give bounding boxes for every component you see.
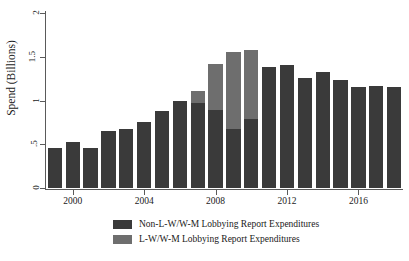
- bar-group[interactable]: [48, 13, 62, 188]
- bar-group[interactable]: [191, 13, 205, 188]
- y-tick-label: 2: [0, 8, 38, 17]
- bar-segment-non-lwwm[interactable]: [48, 148, 62, 188]
- bar-segment-non-lwwm[interactable]: [351, 87, 365, 189]
- bar-segment-non-lwwm[interactable]: [66, 142, 80, 188]
- bar-segment-lwwm[interactable]: [208, 64, 222, 110]
- legend-label-lwwm: L-W/W-M Lobbying Report Expenditures: [139, 233, 300, 246]
- chart-figure: Spend (Billions) 0.511.52 20002004200820…: [0, 0, 409, 261]
- x-tick: [287, 190, 288, 195]
- chart-legend: Non-L-W/W-M Lobbying Report Expenditures…: [113, 218, 319, 248]
- bar-segment-non-lwwm[interactable]: [101, 131, 115, 188]
- bar-group[interactable]: [369, 13, 383, 188]
- bar-segment-non-lwwm[interactable]: [137, 122, 151, 188]
- bar-group[interactable]: [244, 13, 258, 188]
- bar-segment-non-lwwm[interactable]: [369, 86, 383, 188]
- x-tick-label: 2008: [196, 196, 236, 207]
- y-tick-label: 0: [0, 183, 38, 192]
- bar-group[interactable]: [316, 13, 330, 188]
- bar-group[interactable]: [298, 13, 312, 188]
- bar-group[interactable]: [351, 13, 365, 188]
- bar-group[interactable]: [333, 13, 347, 188]
- bar-group[interactable]: [137, 13, 151, 188]
- bar-segment-non-lwwm[interactable]: [155, 111, 169, 188]
- bar-segment-lwwm[interactable]: [191, 91, 205, 103]
- bar-segment-non-lwwm[interactable]: [83, 148, 97, 188]
- bar-segment-non-lwwm[interactable]: [173, 101, 187, 189]
- x-tick-label: 2004: [124, 196, 164, 207]
- bar-segment-non-lwwm[interactable]: [387, 87, 401, 189]
- y-axis-title: Spend (Billions): [5, 13, 17, 143]
- bar-segment-non-lwwm[interactable]: [244, 119, 258, 188]
- bar-group[interactable]: [173, 13, 187, 188]
- legend-swatch-lwwm: [113, 235, 132, 244]
- x-tick-label: 2000: [53, 196, 93, 207]
- y-tick: [40, 144, 45, 145]
- y-tick-label: .5: [0, 139, 38, 148]
- x-tick: [358, 190, 359, 195]
- x-tick: [216, 190, 217, 195]
- bar-group[interactable]: [387, 13, 401, 188]
- bar-segment-lwwm[interactable]: [244, 50, 258, 119]
- bar-group[interactable]: [66, 13, 80, 188]
- bar-segment-non-lwwm[interactable]: [298, 78, 312, 188]
- legend-item-non-lwwm: Non-L-W/W-M Lobbying Report Expenditures: [113, 218, 319, 231]
- legend-swatch-non-lwwm: [113, 220, 132, 229]
- y-tick: [40, 101, 45, 102]
- bar-group[interactable]: [119, 13, 133, 188]
- legend-label-non-lwwm: Non-L-W/W-M Lobbying Report Expenditures: [139, 218, 319, 231]
- x-tick-label: 2012: [267, 196, 307, 207]
- bar-segment-non-lwwm[interactable]: [226, 129, 240, 189]
- y-tick: [40, 13, 45, 14]
- bar-group[interactable]: [83, 13, 97, 188]
- bar-segment-lwwm[interactable]: [226, 52, 240, 128]
- x-tick: [73, 190, 74, 195]
- x-axis-line: [45, 189, 403, 190]
- bar-segment-non-lwwm[interactable]: [316, 72, 330, 188]
- plot-area: [46, 13, 403, 188]
- bar-segment-non-lwwm[interactable]: [333, 80, 347, 188]
- legend-item-lwwm: L-W/W-M Lobbying Report Expenditures: [113, 233, 319, 246]
- y-tick: [40, 188, 45, 189]
- bar-group[interactable]: [208, 13, 222, 188]
- bar-segment-non-lwwm[interactable]: [208, 110, 222, 188]
- bar-group[interactable]: [101, 13, 115, 188]
- y-tick-label: 1: [0, 96, 38, 105]
- bar-group[interactable]: [226, 13, 240, 188]
- bar-group[interactable]: [280, 13, 294, 188]
- x-tick-label: 2016: [338, 196, 378, 207]
- y-tick: [40, 57, 45, 58]
- bar-segment-non-lwwm[interactable]: [262, 67, 276, 188]
- bar-segment-non-lwwm[interactable]: [280, 65, 294, 188]
- x-tick: [144, 190, 145, 195]
- bar-group[interactable]: [262, 13, 276, 188]
- bar-group[interactable]: [155, 13, 169, 188]
- bar-segment-non-lwwm[interactable]: [119, 129, 133, 188]
- bar-segment-non-lwwm[interactable]: [191, 103, 205, 188]
- y-tick-label: 1.5: [0, 52, 38, 61]
